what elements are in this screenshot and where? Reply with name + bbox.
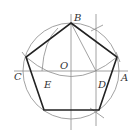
arc-center-B-radius-BD: [26, 57, 117, 77]
label-E: E: [43, 79, 52, 90]
label-C: C: [14, 71, 22, 82]
label-B: B: [73, 12, 81, 23]
label-D: D: [97, 79, 106, 90]
label-A: A: [120, 72, 128, 83]
label-O: O: [60, 60, 68, 71]
pentagon-construction-diagram: B C O E D A: [0, 0, 136, 138]
